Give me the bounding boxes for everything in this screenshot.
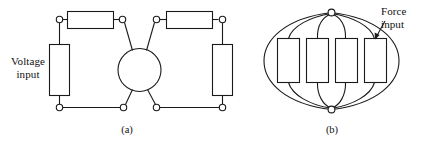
arc-gauge3-top <box>332 14 346 39</box>
node-bottom-right <box>219 104 225 110</box>
voltage-input-label: Voltage input <box>7 55 49 80</box>
gauge-rect-2 <box>307 39 329 83</box>
resistor-top-left <box>68 12 114 29</box>
gauge-rect-3 <box>336 39 358 83</box>
resistor-left-vertical <box>50 45 70 96</box>
figure-container: Voltage input Force input (a) (b) <box>0 0 431 146</box>
node-bottom-mid-right <box>153 104 159 110</box>
node-bottom-mid-left <box>120 104 126 110</box>
force-input-label: Force input <box>381 5 429 30</box>
resistor-right-vertical <box>213 45 233 96</box>
node-diaphragm-top <box>328 9 335 16</box>
wire-diagonal-top-left <box>125 23 133 51</box>
gauge-rect-1 <box>278 39 300 83</box>
caption-panel-b: (b) <box>315 124 349 135</box>
node-top-left <box>56 16 62 22</box>
wire-diagonal-bottom-right <box>148 90 156 105</box>
caption-panel-a: (a) <box>110 124 144 135</box>
central-circle <box>118 49 161 92</box>
node-top-right <box>219 16 225 22</box>
resistor-top-right <box>167 12 213 29</box>
gauge-rect-4 <box>365 39 387 83</box>
wire-diagonal-top-right <box>147 23 155 51</box>
node-top-mid-right <box>153 16 159 22</box>
wire-diagonal-bottom-left <box>126 90 133 105</box>
arc-gauge3-bottom <box>332 83 346 109</box>
panel-a-diagram <box>50 12 233 111</box>
node-bottom-left <box>56 104 62 110</box>
node-diaphragm-bottom <box>328 106 335 113</box>
panel-b-diagram <box>264 9 399 113</box>
arc-gauge2-bottom <box>317 83 331 109</box>
figure-svg <box>0 0 431 146</box>
node-top-mid-left <box>119 16 125 22</box>
arc-gauge2-top <box>317 14 331 39</box>
